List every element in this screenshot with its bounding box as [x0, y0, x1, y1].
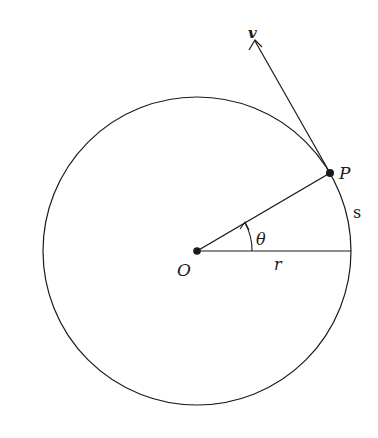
label-angle: θ	[256, 230, 266, 249]
label-point: P	[338, 163, 351, 183]
point-p	[326, 169, 334, 177]
angle-arc	[245, 223, 252, 251]
label-arc: s	[353, 203, 361, 222]
circular-motion-diagram: v P O r θ s	[0, 0, 378, 438]
label-origin: O	[177, 260, 191, 280]
label-radius: r	[274, 255, 283, 274]
origin-point	[193, 247, 201, 255]
label-velocity: v	[248, 24, 257, 42]
velocity-vector	[255, 41, 330, 173]
